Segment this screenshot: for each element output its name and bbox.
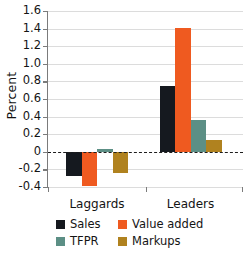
y-axis-title: Percent bbox=[4, 41, 19, 151]
bar-laggards-markups bbox=[113, 152, 129, 173]
x-tick-mark bbox=[48, 187, 49, 192]
y-tick-label: 0.4 bbox=[23, 111, 41, 123]
y-tick-mark bbox=[43, 134, 48, 135]
legend-label-markups: Markups bbox=[132, 236, 181, 248]
y-tick-label: 1.6 bbox=[23, 5, 41, 17]
bar-leaders-markups bbox=[206, 140, 222, 151]
legend-swatch-tfpr bbox=[56, 237, 65, 246]
legend-swatch-value-added bbox=[118, 220, 127, 229]
y-tick-mark bbox=[43, 81, 48, 82]
gridline bbox=[48, 81, 243, 82]
y-tick-label: 0.6 bbox=[23, 93, 41, 105]
x-tick-mark bbox=[146, 187, 147, 192]
gridline bbox=[48, 134, 243, 135]
y-tick-label: 0.8 bbox=[23, 76, 41, 88]
gridline bbox=[48, 11, 243, 12]
gridline bbox=[48, 99, 243, 100]
y-tick-mark bbox=[43, 99, 48, 100]
chart-legend: Sales Value added TFPR Markups bbox=[56, 216, 246, 250]
y-tick-label: -0.2 bbox=[19, 164, 41, 176]
y-tick-mark bbox=[43, 46, 48, 47]
y-tick-label: -0.4 bbox=[19, 181, 41, 193]
y-tick-mark bbox=[43, 29, 48, 30]
y-tick-mark bbox=[43, 117, 48, 118]
legend-label-sales: Sales bbox=[70, 219, 101, 231]
legend-row-2: TFPR Markups bbox=[56, 233, 246, 250]
legend-swatch-markups bbox=[118, 237, 127, 246]
zero-reference-line bbox=[48, 152, 243, 153]
plot-area: 1.61.41.21.00.80.60.40.20-0.2-0.4 Laggar… bbox=[48, 11, 243, 187]
bar-chart-figure: Percent 1.61.41.21.00.80.60.40.20-0.2-0.… bbox=[0, 0, 250, 253]
y-tick-label: 1.4 bbox=[23, 23, 41, 35]
bar-laggards-value-added bbox=[82, 152, 98, 186]
y-tick-label: 1.2 bbox=[23, 40, 41, 52]
bar-leaders-sales bbox=[160, 86, 176, 152]
gridline bbox=[48, 117, 243, 118]
y-tick-mark bbox=[43, 11, 48, 12]
gridline bbox=[48, 64, 243, 65]
bar-leaders-value-added bbox=[175, 28, 191, 152]
y-tick-label: 0 bbox=[34, 146, 41, 158]
gridline bbox=[48, 46, 243, 47]
x-tick-label-laggards: Laggards bbox=[69, 197, 124, 211]
legend-swatch-sales bbox=[56, 220, 65, 229]
legend-entry-markups: Markups bbox=[118, 236, 181, 248]
y-tick-label: 1.0 bbox=[23, 58, 41, 70]
y-tick-label: 0.2 bbox=[23, 128, 41, 140]
legend-row-1: Sales Value added bbox=[56, 216, 246, 233]
legend-label-tfpr: TFPR bbox=[70, 236, 99, 248]
x-tick-mark bbox=[242, 187, 243, 192]
bar-laggards-sales bbox=[66, 152, 82, 177]
bar-leaders-tfpr bbox=[191, 120, 207, 152]
gridline bbox=[48, 29, 243, 30]
legend-entry-tfpr: TFPR bbox=[56, 236, 118, 248]
y-tick-mark bbox=[43, 64, 48, 65]
y-tick-mark bbox=[43, 169, 48, 170]
legend-entry-sales: Sales bbox=[56, 219, 118, 231]
legend-label-value-added: Value added bbox=[132, 219, 203, 231]
legend-entry-value-added: Value added bbox=[118, 219, 203, 231]
x-tick-label-leaders: Leaders bbox=[167, 197, 214, 211]
